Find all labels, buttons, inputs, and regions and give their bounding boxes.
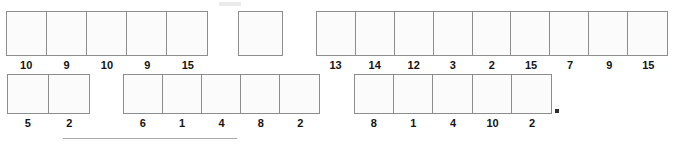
scan-artifact	[219, 2, 241, 6]
cell-label: 2	[472, 59, 511, 71]
label-row: 8 1 4 10 2	[354, 117, 552, 129]
grid-cell[interactable]	[628, 12, 667, 55]
grid-cell[interactable]	[356, 12, 395, 55]
grid-cell[interactable]	[317, 12, 356, 55]
cell-label: 2	[512, 117, 552, 129]
grid-cell[interactable]	[167, 12, 207, 55]
label-row: 10 9 10 9 15	[6, 59, 208, 71]
cell-label: 10	[87, 59, 127, 71]
top-right-strip: 13 14 12 3 2 15 7 9 15	[316, 11, 668, 71]
grid-cell[interactable]	[511, 12, 550, 55]
grid-cell[interactable]	[355, 75, 394, 113]
cell-label: 9	[590, 59, 629, 71]
bottom-middle-strip: 6 1 4 8 2	[123, 74, 320, 129]
grid-cell[interactable]	[550, 12, 589, 55]
cell-label: 4	[433, 117, 473, 129]
grid-cell[interactable]	[394, 75, 433, 113]
cell-label: 15	[629, 59, 668, 71]
horizontal-rule	[63, 138, 237, 139]
worksheet-page: 10 9 10 9 15 13 14 12 3 2 15 7	[0, 0, 674, 146]
bottom-right-strip: 8 1 4 10 2	[354, 74, 552, 129]
cell-label: 6	[123, 117, 162, 129]
grid-cell[interactable]	[7, 12, 47, 55]
cell-run	[354, 74, 552, 114]
grid-cell[interactable]	[589, 12, 628, 55]
cell-label: 1	[394, 117, 434, 129]
label-row: 13 14 12 3 2 15 7 9 15	[316, 59, 668, 71]
grid-cell[interactable]	[512, 75, 551, 113]
grid-cell[interactable]	[87, 12, 127, 55]
grid-cell[interactable]	[202, 75, 241, 113]
cell-label: 15	[511, 59, 550, 71]
cell-run	[6, 11, 208, 56]
bottom-left-strip: 5 2	[7, 74, 90, 129]
grid-cell[interactable]	[473, 75, 512, 113]
cell-label: 9	[127, 59, 167, 71]
grid-cell[interactable]	[124, 75, 163, 113]
label-row: 5 2	[7, 117, 90, 129]
cell-run	[7, 74, 90, 114]
cell-label: 2	[281, 117, 320, 129]
label-row: 6 1 4 8 2	[123, 117, 320, 129]
cell-label: 1	[162, 117, 201, 129]
grid-cell[interactable]	[163, 75, 202, 113]
grid-cell[interactable]	[395, 12, 434, 55]
grid-cell[interactable]	[434, 12, 473, 55]
grid-cell[interactable]	[127, 12, 167, 55]
cell-label: 15	[168, 59, 208, 71]
top-solo-cell[interactable]	[238, 11, 283, 56]
cell-label: 8	[354, 117, 394, 129]
grid-cell[interactable]	[241, 75, 280, 113]
cell-run	[123, 74, 320, 114]
grid-cell[interactable]	[473, 12, 512, 55]
cell-label: 5	[7, 117, 49, 129]
cell-label: 10	[6, 59, 46, 71]
grid-cell[interactable]	[49, 75, 89, 113]
cell-label: 10	[473, 117, 513, 129]
cell-run	[316, 11, 668, 56]
cell-label: 13	[316, 59, 355, 71]
top-left-strip: 10 9 10 9 15	[6, 11, 208, 71]
cell-label: 12	[394, 59, 433, 71]
grid-cell[interactable]	[433, 75, 472, 113]
period-mark	[555, 109, 559, 113]
grid-cell[interactable]	[47, 12, 87, 55]
cell-label: 8	[241, 117, 280, 129]
cell-label: 2	[49, 117, 91, 129]
cell-label: 4	[202, 117, 241, 129]
cell-label: 14	[355, 59, 394, 71]
cell-label: 7	[551, 59, 590, 71]
grid-cell[interactable]	[8, 75, 49, 113]
cell-label: 9	[46, 59, 86, 71]
grid-cell[interactable]	[280, 75, 319, 113]
cell-label: 3	[433, 59, 472, 71]
